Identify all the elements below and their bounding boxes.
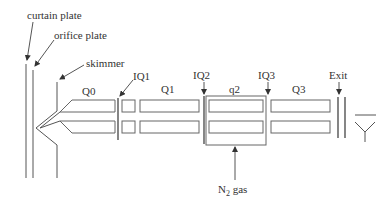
- q2-collision-cell: q2: [206, 83, 266, 145]
- exit-lens: Exit: [329, 69, 347, 138]
- iq3-label: IQ3: [258, 69, 276, 81]
- exit-label: Exit: [329, 69, 347, 81]
- n2-gas-inlet: N2 gas: [218, 147, 247, 198]
- iq2-label: IQ2: [193, 69, 210, 81]
- skimmer: skimmer: [36, 57, 125, 178]
- skimmer-label: skimmer: [86, 57, 125, 69]
- q1-label: Q1: [161, 83, 174, 95]
- orifice-plate-label: orifice plate: [54, 29, 107, 41]
- prefilter-rods: [122, 100, 135, 133]
- iq3-lens: IQ3: [258, 69, 276, 94]
- iq1-label: IQ1: [133, 70, 150, 82]
- q0-label: Q0: [82, 85, 96, 97]
- mass-spec-diagram: curtain plate orifice plate skimmer Q0 I…: [0, 0, 391, 207]
- curtain-plate-arrow: [27, 22, 33, 60]
- n2-gas-label: N2 gas: [218, 183, 247, 198]
- q3-label: Q3: [292, 83, 306, 95]
- q3-quadrupole: Q3: [271, 83, 330, 133]
- q1-quadrupole: Q1: [140, 83, 199, 133]
- iq1-arrow: [120, 80, 133, 96]
- skimmer-arrow: [60, 65, 84, 79]
- detector-icon: [355, 115, 376, 142]
- q0-quadrupole: Q0: [40, 85, 115, 133]
- orifice-plate-arrow: [35, 40, 54, 66]
- q2-label: q2: [229, 83, 240, 95]
- curtain-plate-label: curtain plate: [27, 9, 82, 21]
